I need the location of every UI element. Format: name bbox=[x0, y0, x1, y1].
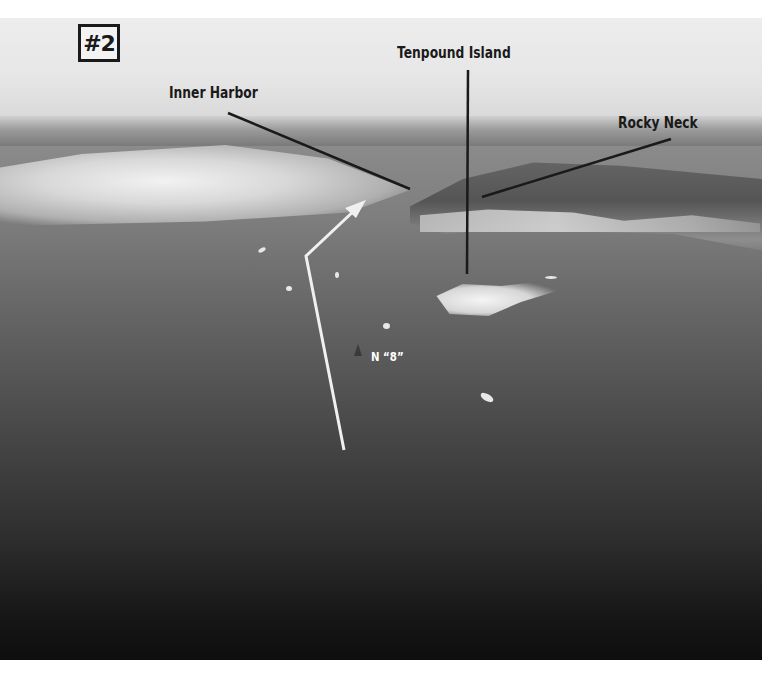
figure-number-badge: #2 bbox=[78, 24, 120, 62]
town-shoreline-left bbox=[0, 136, 410, 226]
inner-harbor-label: Inner Harbor bbox=[169, 84, 258, 102]
boat bbox=[479, 391, 495, 404]
boat bbox=[286, 286, 292, 291]
boat bbox=[383, 323, 390, 329]
tenpound-island-landmass bbox=[430, 280, 560, 320]
rocky-neck-label: Rocky Neck bbox=[618, 114, 698, 132]
rocky-neck-landmass bbox=[410, 146, 762, 256]
boat bbox=[335, 272, 339, 278]
buoy-n8-label: N “8” bbox=[371, 350, 404, 364]
boat bbox=[258, 246, 267, 253]
boat bbox=[545, 276, 557, 279]
tenpound-island-label: Tenpound Island bbox=[397, 44, 511, 62]
